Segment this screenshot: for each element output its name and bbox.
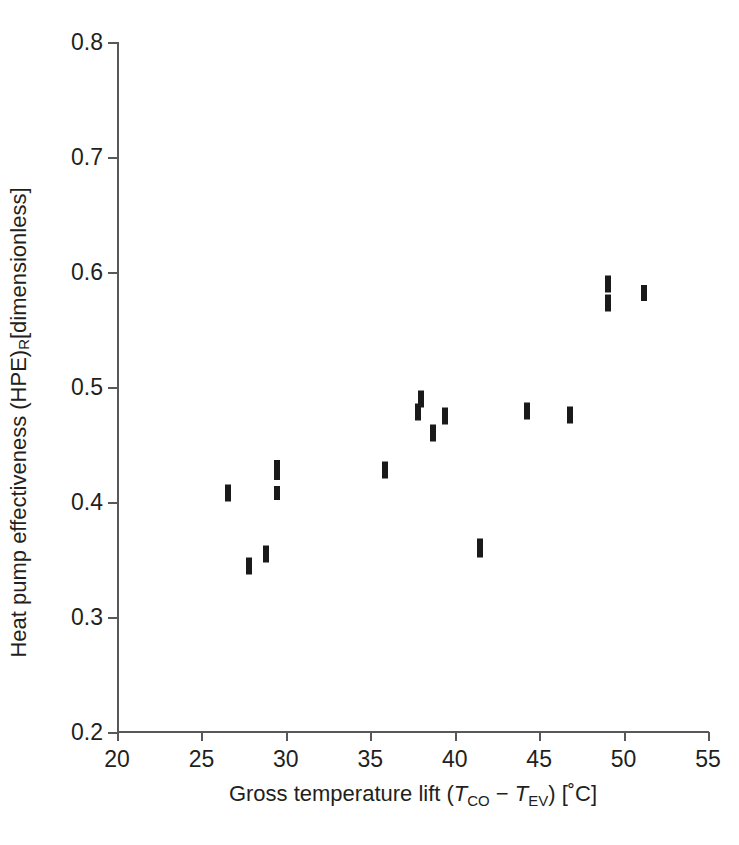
y-tick-label: 0.8 (71, 31, 103, 54)
y-tick-label: 0.3 (71, 606, 103, 629)
y-tick-mark (108, 42, 117, 44)
y-tick-label: 0.4 (71, 491, 103, 514)
x-tick-label: 55 (695, 748, 721, 771)
y-tick-label: 0.2 (71, 721, 103, 744)
x-tick-label: 30 (273, 748, 299, 771)
data-point-marker (524, 403, 530, 420)
chart-figure: 0.80.70.60.50.40.30.2 2025303540455055 G… (0, 0, 739, 845)
y-axis-title: Heat pump effectiveness (HPE)R [dimensio… (0, 0, 38, 845)
y-tick-label: 0.7 (71, 146, 103, 169)
x-tick-label: 40 (442, 748, 468, 771)
y-axis-title-tail: [dimensionless] (6, 187, 32, 339)
data-point-marker (430, 425, 436, 442)
data-point-marker (567, 406, 573, 423)
x-tick-mark (708, 732, 710, 741)
x-tick-mark (624, 732, 626, 741)
y-tick-mark (108, 617, 117, 619)
x-tick-mark (455, 732, 457, 741)
x-tick-label: 25 (189, 748, 215, 771)
x-tick-mark (201, 732, 203, 741)
x-axis-symbol-tev: T (515, 781, 528, 806)
x-tick-mark (539, 732, 541, 741)
x-tick-label: 20 (104, 748, 130, 771)
data-point-marker (274, 486, 280, 500)
y-tick-mark (108, 387, 117, 389)
y-axis-subscript-r: R (15, 339, 32, 350)
x-axis-symbol-tco: T (454, 781, 467, 806)
x-tick-label: 35 (357, 748, 383, 771)
y-tick-mark (108, 502, 117, 504)
x-axis-minus-sign: − (490, 781, 515, 806)
x-axis-title-lead: Gross temperature lift ( (229, 781, 454, 806)
data-point-marker (274, 460, 280, 480)
data-point-marker (605, 275, 611, 292)
x-tick-mark (286, 732, 288, 741)
x-tick-label: 45 (526, 748, 552, 771)
plot-area: 0.80.70.60.50.40.30.2 2025303540455055 (117, 42, 708, 732)
data-point-marker (641, 285, 647, 301)
x-tick-label: 50 (611, 748, 637, 771)
x-tick-mark (370, 732, 372, 741)
y-tick-mark (108, 732, 117, 734)
x-tick-mark (117, 732, 119, 741)
y-tick-mark (108, 272, 117, 274)
data-point-marker (442, 407, 448, 424)
y-axis-title-lead: Heat pump effectiveness (HPE) (6, 350, 32, 658)
data-point-marker (263, 545, 269, 562)
y-tick-mark (108, 157, 117, 159)
x-axis-subscript-ev: EV (528, 792, 548, 809)
y-tick-label: 0.6 (71, 261, 103, 284)
data-point-marker (382, 461, 388, 478)
data-point-marker (605, 295, 611, 312)
data-point-marker (225, 484, 231, 501)
data-point-marker (246, 558, 252, 575)
x-axis-title: Gross temperature lift (TCO − TEV) [˚C] (117, 781, 709, 807)
data-point-marker (415, 404, 421, 421)
x-axis-title-tail: ) [˚C] (548, 781, 597, 806)
y-tick-label: 0.5 (71, 376, 103, 399)
data-point-marker (477, 539, 483, 558)
x-axis-subscript-co: CO (467, 792, 489, 809)
